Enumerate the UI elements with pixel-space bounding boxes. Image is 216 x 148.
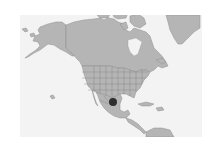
cuba [138, 102, 154, 106]
map-panel[interactable]: North America distribution map [20, 15, 202, 137]
hawaii-islands [50, 95, 55, 99]
central-america-landmass [126, 102, 174, 137]
greenland-landmass [166, 15, 200, 44]
map-canvas[interactable] [20, 15, 202, 137]
canada-landmass [66, 15, 168, 72]
hispaniola [156, 107, 164, 111]
south-america-north [146, 128, 174, 137]
occurrence-marker[interactable] [109, 98, 117, 106]
